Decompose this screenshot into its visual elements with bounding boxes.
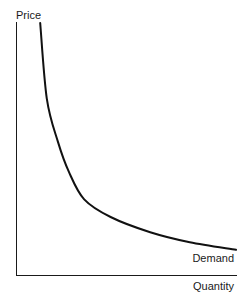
- x-axis-label: Quantity: [193, 280, 234, 292]
- chart-canvas: [0, 0, 237, 293]
- y-axis-label: Price: [16, 9, 41, 21]
- demand-curve-chart: Price Demand Quantity: [0, 0, 237, 293]
- demand-curve: [40, 23, 236, 250]
- demand-series-label: Demand: [192, 252, 234, 264]
